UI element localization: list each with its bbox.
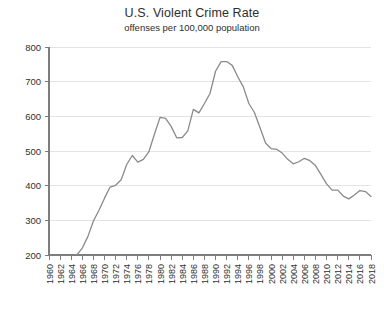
x-axis-tick-label: 2014 <box>344 264 354 284</box>
x-axis-tick-label: 2012 <box>333 264 343 284</box>
y-axis-tick-label: 700 <box>25 76 41 87</box>
x-axis-tick-labels: 1960196219641966196819701972197419761978… <box>45 264 377 284</box>
x-axis-tick-label: 1986 <box>189 264 199 284</box>
x-axis-tick-label: 1998 <box>255 264 265 284</box>
y-axis-tick-label: 800 <box>25 42 41 53</box>
y-axis-tick-labels: 800700600500400300200 <box>25 42 41 261</box>
x-axis-tick-label: 1978 <box>144 264 154 284</box>
gridlines <box>49 47 371 255</box>
y-axis-tick-label: 500 <box>25 146 41 157</box>
x-axis-tick-label: 2004 <box>289 264 299 284</box>
x-axis-tick-label: 1960 <box>45 264 55 284</box>
x-axis-tick-label: 1972 <box>111 264 121 284</box>
x-axis-tick-label: 2016 <box>355 264 365 284</box>
y-axis-tick-label: 600 <box>25 111 41 122</box>
x-axis-tick-label: 1994 <box>233 264 243 284</box>
x-axis-tick-label: 1964 <box>67 264 77 284</box>
x-axis-tick-label: 1988 <box>200 264 210 284</box>
y-axis-tick-label: 200 <box>25 250 41 261</box>
x-axis-tick-label: 1980 <box>156 264 166 284</box>
violent-crime-rate-chart: U.S. Violent Crime Rate offenses per 100… <box>0 0 384 309</box>
x-axis-tick-label: 1962 <box>56 264 66 284</box>
crime-rate-line-series <box>49 62 371 270</box>
x-axis-tick-label: 1968 <box>89 264 99 284</box>
x-axis-tick-label: 1970 <box>100 264 110 284</box>
x-axis-tick-label: 2008 <box>311 264 321 284</box>
x-axis-tick-label: 1982 <box>167 264 177 284</box>
x-axis-tick-label: 2018 <box>367 264 377 284</box>
x-axis-tick-label: 1984 <box>178 264 188 284</box>
x-axis-tick-label: 1966 <box>78 264 88 284</box>
x-axis-tick-label: 1990 <box>211 264 221 284</box>
x-axis-tick-marks <box>49 255 371 260</box>
y-axis-tick-label: 400 <box>25 180 41 191</box>
x-axis-tick-label: 2006 <box>300 264 310 284</box>
y-axis-tick-label: 300 <box>25 215 41 226</box>
x-axis-tick-label: 1974 <box>122 264 132 284</box>
x-axis-tick-label: 2002 <box>278 264 288 284</box>
x-axis-tick-label: 2010 <box>322 264 332 284</box>
chart-plot-area: 800700600500400300200 196019621964196619… <box>0 0 384 309</box>
x-axis-tick-label: 1996 <box>244 264 254 284</box>
x-axis-tick-label: 1976 <box>133 264 143 284</box>
x-axis-tick-label: 1992 <box>222 264 232 284</box>
x-axis-tick-label: 2000 <box>267 264 277 284</box>
